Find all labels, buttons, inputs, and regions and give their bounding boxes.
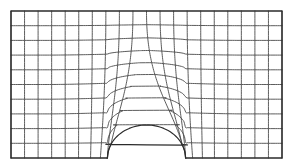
mesh-figure [0, 0, 293, 165]
mesh-canvas [0, 0, 293, 165]
